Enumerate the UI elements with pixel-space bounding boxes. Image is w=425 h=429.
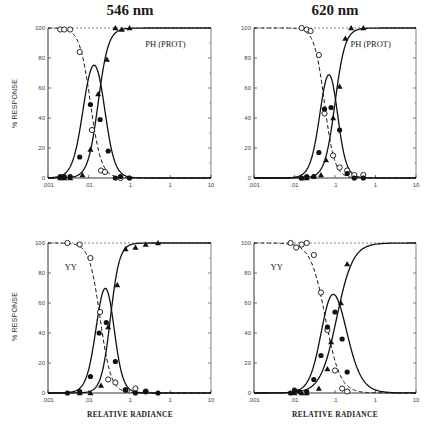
panel-label: PH (PROT) — [145, 39, 186, 49]
filled-circle-marker — [127, 175, 132, 180]
open-circle-fit-curve — [48, 28, 211, 178]
y-tick-label: 100 — [241, 240, 252, 246]
open-circle-marker — [88, 255, 93, 260]
open-circle-marker — [68, 27, 73, 32]
chart-panels: 020406080100.001.01.1110PH (PROT)0204060… — [0, 0, 425, 429]
x-tick-label: .01 — [85, 182, 94, 188]
filled-circle-marker — [88, 374, 93, 379]
open-circle-marker — [294, 245, 299, 250]
filled-triangle-marker — [360, 25, 366, 30]
filled-circle-marker — [318, 353, 323, 358]
filled-circle-fit-curve — [48, 288, 211, 393]
filled-triangle-marker — [143, 242, 149, 247]
panel-label: PH (PROT) — [350, 39, 391, 49]
open-circle-marker — [308, 28, 313, 33]
open-circle-marker — [133, 386, 138, 391]
open-circle-marker — [102, 169, 107, 174]
filled-circle-marker — [345, 369, 350, 374]
open-circle-marker — [332, 368, 337, 373]
x-tick-label: .001 — [248, 182, 260, 188]
x-tick-label: 1 — [169, 182, 173, 188]
open-circle-marker — [311, 252, 316, 257]
filled-circle-marker — [322, 106, 327, 111]
filled-triangle-marker — [316, 386, 322, 391]
filled-circle-marker — [118, 174, 123, 179]
filled-triangle-marker — [87, 147, 93, 152]
plot-panel-2: 020406080100.001.01.1110YY — [35, 240, 215, 403]
filled-circle-marker — [311, 377, 316, 382]
y-tick-label: 80 — [38, 270, 45, 276]
filled-circle-marker — [345, 171, 350, 176]
filled-circle-marker — [133, 390, 138, 395]
filled-circle-marker — [143, 389, 148, 394]
open-circle-marker — [77, 242, 82, 247]
y-tick-label: 40 — [244, 115, 251, 121]
filled-circle-marker — [340, 336, 345, 341]
open-circle-marker — [340, 386, 345, 391]
y-tick-label: 20 — [38, 145, 45, 151]
filled-circle-marker — [98, 117, 103, 122]
filled-circle-marker — [352, 175, 357, 180]
y-tick-label: 60 — [244, 300, 251, 306]
x-tick-label: .1 — [127, 397, 133, 403]
filled-triangle-marker — [342, 36, 348, 41]
open-circle-marker — [299, 25, 304, 30]
x-tick-label: 1 — [374, 397, 378, 403]
panel-label: YY — [271, 262, 283, 272]
filled-circle-marker — [361, 175, 366, 180]
open-circle-marker — [331, 153, 336, 158]
filled-triangle-fit-curve — [48, 28, 211, 178]
y-tick-label: 100 — [35, 25, 46, 31]
filled-circle-marker — [337, 127, 342, 132]
x-tick-label: 10 — [208, 397, 215, 403]
x-tick-label: .1 — [332, 397, 338, 403]
x-tick-label: 10 — [413, 397, 420, 403]
filled-triangle-marker — [324, 366, 330, 371]
y-tick-label: 60 — [244, 85, 251, 91]
plot-panel-1: 020406080100.001.01.1110PH (PROT) — [241, 25, 420, 188]
x-tick-label: 10 — [208, 182, 215, 188]
open-circle-marker — [345, 389, 350, 394]
x-tick-label: 1 — [374, 182, 378, 188]
x-tick-label: .1 — [127, 182, 133, 188]
filled-circle-marker — [97, 330, 102, 335]
plot-panel-3: 020406080100.001.01.1110YY — [241, 240, 420, 403]
y-tick-label: 40 — [244, 330, 251, 336]
y-tick-label: 100 — [241, 25, 252, 31]
open-circle-marker — [98, 309, 103, 314]
filled-circle-marker — [316, 150, 321, 155]
y-tick-label: 0 — [248, 175, 252, 181]
filled-circle-fit-curve — [254, 294, 416, 393]
filled-circle-marker — [88, 102, 93, 107]
filled-triangle-marker — [323, 157, 329, 162]
filled-circle-marker — [123, 387, 128, 392]
open-circle-marker — [316, 52, 321, 57]
y-tick-label: 80 — [38, 55, 45, 61]
open-circle-marker — [77, 49, 82, 54]
filled-triangle-marker — [348, 25, 354, 30]
filled-circle-marker — [325, 324, 330, 329]
filled-triangle-marker — [132, 245, 138, 250]
x-tick-label: .01 — [85, 397, 94, 403]
x-tick-label: .001 — [248, 397, 260, 403]
y-tick-label: 100 — [35, 240, 46, 246]
x-tick-label: .01 — [290, 182, 299, 188]
y-tick-label: 20 — [244, 360, 251, 366]
open-circle-marker — [318, 290, 323, 295]
y-tick-label: 80 — [244, 55, 251, 61]
filled-circle-marker — [332, 309, 337, 314]
x-tick-label: 10 — [413, 182, 420, 188]
open-circle-marker — [89, 127, 94, 132]
y-tick-label: 60 — [38, 300, 45, 306]
x-tick-label: .001 — [42, 182, 54, 188]
x-tick-label: .1 — [332, 182, 338, 188]
y-tick-label: 40 — [38, 330, 45, 336]
filled-circle-fit-curve — [254, 75, 416, 178]
y-tick-label: 0 — [42, 175, 46, 181]
filled-circle-marker — [77, 154, 82, 159]
filled-triangle-marker — [328, 339, 334, 344]
y-tick-label: 40 — [38, 115, 45, 121]
filled-circle-marker — [328, 105, 333, 110]
panel-label: YY — [65, 262, 77, 272]
filled-triangle-marker — [344, 261, 350, 266]
